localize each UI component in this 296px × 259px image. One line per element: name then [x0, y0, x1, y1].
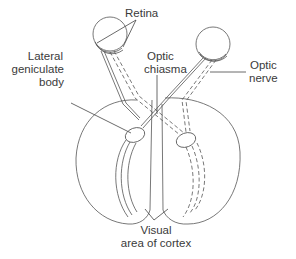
label-optic-nerve-2: nerve — [249, 72, 278, 84]
brain-outline — [76, 98, 240, 224]
label-optic-chiasma-1: Optic — [147, 50, 174, 62]
right-optic-radiation — [183, 143, 205, 217]
label-optic-nerve-1: Optic — [250, 59, 277, 71]
label-lgb-2: geniculate — [12, 63, 64, 75]
label-retina: Retina — [125, 7, 159, 19]
label-lgb-3: body — [39, 76, 64, 88]
label-optic-chiasma-2: chiasma — [144, 63, 187, 75]
label-lgb-1: Lateral — [28, 50, 63, 62]
label-visual-cortex-2: area of cortex — [121, 237, 192, 249]
left-eye-ipsilateral-fibres — [101, 51, 140, 120]
label-visual-cortex-1: Visual — [140, 224, 171, 236]
right-eye — [196, 27, 230, 61]
left-optic-radiation — [116, 140, 137, 217]
right-eye-ipsilateral-fibres — [182, 60, 216, 132]
visual-pathway-diagram: Retina Optic chiasma Lateral geniculate … — [0, 0, 296, 259]
